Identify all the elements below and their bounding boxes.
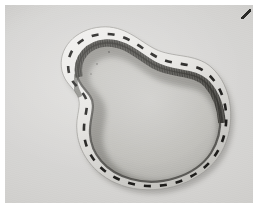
band-illustration <box>5 5 253 203</box>
photograph <box>5 5 253 203</box>
screenshot-root <box>0 0 263 208</box>
